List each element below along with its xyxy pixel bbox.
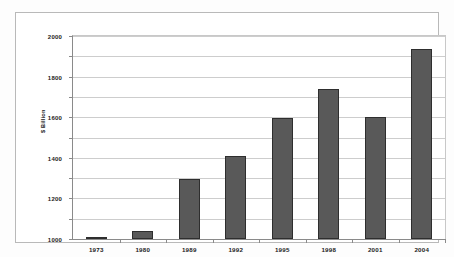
x-axis-tick-label: 1980	[135, 246, 150, 253]
y-axis-tick: 400	[69, 198, 73, 199]
y-axis-tick-label: 1600	[48, 115, 62, 121]
bar	[365, 117, 386, 239]
y-axis-tick: 800	[69, 158, 73, 159]
gridline	[73, 178, 445, 179]
gridline	[73, 77, 445, 78]
gridline	[73, 97, 445, 98]
gridline	[73, 138, 445, 139]
x-axis-tick-label: 1973	[89, 246, 104, 253]
x-axis-tick-label: 2001	[368, 246, 383, 253]
x-axis-tick	[120, 239, 121, 243]
y-axis-tick: 1800	[69, 56, 73, 57]
x-axis-tick	[259, 239, 260, 243]
x-axis-tick-label: 1998	[321, 246, 336, 253]
gridline	[73, 158, 445, 159]
gridline	[73, 56, 445, 57]
y-axis-tick: 1400	[69, 97, 73, 98]
bar	[132, 231, 153, 239]
x-axis-tick-label: 1992	[228, 246, 243, 253]
gridline	[73, 117, 445, 118]
y-axis-tick: 0	[69, 239, 73, 240]
bar	[179, 179, 200, 239]
bar	[86, 237, 107, 239]
x-axis-tick-label: 1995	[275, 246, 290, 253]
bar	[318, 89, 339, 239]
y-axis-tick-label: 2000	[48, 34, 62, 40]
y-axis-tick-label: 1800	[48, 75, 62, 81]
y-axis-tick: 1600	[69, 77, 73, 78]
bar	[225, 156, 246, 239]
gridline	[73, 219, 445, 220]
bar	[411, 49, 432, 239]
y-axis-tick: 1000	[69, 138, 73, 139]
y-axis-tick: 200	[69, 219, 73, 220]
gridline	[73, 36, 445, 37]
x-axis-tick	[445, 239, 446, 243]
y-axis-tick: 600	[69, 178, 73, 179]
x-axis-tick	[399, 239, 400, 243]
x-axis-tick-label: 1989	[182, 246, 197, 253]
x-axis-tick-label: 2004	[414, 246, 429, 253]
x-axis-tick	[352, 239, 353, 243]
x-axis-tick	[213, 239, 214, 243]
chart-figure: $ Billion 020040060080010001200140016001…	[0, 0, 454, 257]
bar	[272, 118, 293, 239]
y-axis-tick: 1200	[69, 117, 73, 118]
y-axis-tick-label: 1400	[48, 156, 62, 162]
x-axis-tick	[306, 239, 307, 243]
figure-frame: $ Billion 020040060080010001200140016001…	[15, 12, 439, 243]
x-axis-tick	[166, 239, 167, 243]
y-axis-title: $ Billion	[40, 109, 46, 133]
gridline	[73, 198, 445, 199]
y-axis-tick: 2000	[69, 36, 73, 37]
y-axis-tick-label: 1000	[48, 237, 62, 243]
y-axis-tick-label: 1200	[48, 196, 62, 202]
plot-area: 0200400600800100012001400160018002000 19…	[72, 35, 446, 240]
